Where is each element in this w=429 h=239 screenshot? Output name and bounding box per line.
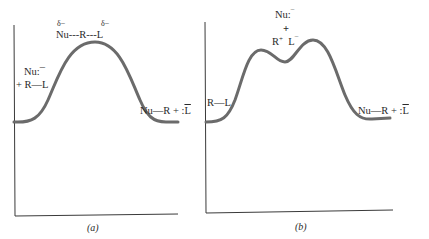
panel-a-reactant-nucleophile: Nu:¯: [24, 67, 45, 78]
panel-b-intermediate-plus: +: [283, 24, 289, 35]
panel-b-nu-charge: ¯: [291, 8, 295, 16]
panel-b-caption: (b): [295, 222, 307, 232]
panel-a-products-text: Nu—R + :: [140, 105, 184, 116]
panel-b-intermediate-ions: R+ L¯: [272, 37, 298, 48]
panel-b-cation: R: [272, 36, 279, 47]
panel-a-caption: (a): [87, 223, 99, 233]
panel-a-transition-state: Nu---R---L: [56, 30, 103, 41]
panel-a-products: Nu—R + :L: [140, 106, 191, 117]
panel-a-delta-right: δ−: [101, 20, 109, 28]
panel-b-products-text: Nu—R + :: [358, 105, 402, 116]
panel-b-reactant: R—L: [207, 98, 231, 109]
panel-b-intermediate-nucleophile: Nu:¯: [275, 10, 294, 21]
panel-b-cation-charge: +: [279, 35, 283, 43]
panel-b-products: Nu—R + :L: [358, 106, 409, 117]
panel-a-leaving-group: L: [184, 105, 190, 116]
panel-a-reactant-substrate: + R—L: [16, 80, 48, 91]
panel-a-delta-left: δ−: [57, 20, 65, 28]
panel-b-leaving-group: L: [402, 105, 408, 116]
panel-b-nu-text: Nu:: [275, 9, 291, 20]
panel-b-anion-charge: ¯: [295, 35, 299, 43]
